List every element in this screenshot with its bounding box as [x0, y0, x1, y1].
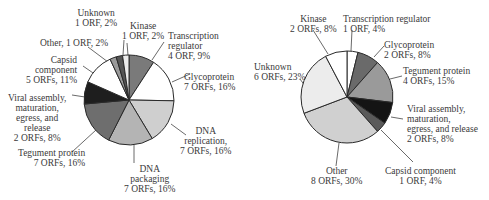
slice-label-line: Viral assembly, — [8, 93, 66, 103]
leader-line — [72, 95, 85, 97]
slice-label: Viral assembly,maturation,egress, and re… — [407, 104, 478, 144]
slice-label-line: Tegument protein — [18, 148, 85, 158]
slice-label-line: regulator — [168, 41, 219, 51]
slice-label-line: 1 ORF, 2% — [75, 18, 117, 28]
slice-label: Glycoprotein2 ORFs, 8% — [384, 40, 434, 60]
leader-line — [123, 40, 124, 55]
slice-label-line: Capsid — [26, 55, 77, 65]
slice-label-line: 2 ORFs, 8% — [384, 50, 434, 60]
slice-label-line: Transcription regulator — [343, 14, 431, 24]
leader-line — [391, 117, 403, 119]
slice-label-line: release — [8, 123, 66, 133]
slice-label: Other8 ORFs, 30% — [311, 166, 362, 186]
slice-label: Capsidcomponent5 ORFs, 11% — [26, 55, 77, 85]
slice-label-line: DNA — [124, 164, 175, 174]
slice-label-line: egress, and — [8, 113, 66, 123]
leader-line — [374, 46, 384, 57]
slice-label-line: Other, 1 ORF, 2% — [40, 38, 108, 48]
slice-label: Kinase1 ORF, 2% — [122, 21, 164, 41]
slice-label-line: Kinase — [122, 21, 164, 31]
slice-label: Kinase2 ORFs, 8% — [290, 14, 337, 34]
slice-label-line: 7 ORFs, 16% — [180, 146, 231, 156]
slice-label-line: 7 ORFs, 16% — [18, 158, 85, 168]
slice-label: Unknown6 ORFs, 23% — [254, 62, 305, 82]
slice-label-line: replication, — [180, 136, 231, 146]
slice-label-line: Viral assembly, — [407, 104, 478, 114]
slice-label-line: 2 ORFs, 8% — [290, 24, 337, 34]
pie-chart-1 — [84, 55, 174, 145]
slice-label-line: 7 ORFs, 16% — [124, 184, 175, 194]
slice-label: Glycoprotein7 ORFs, 16% — [184, 72, 235, 92]
slice-label-line: 8 ORFs, 30% — [311, 176, 362, 186]
leader-line — [390, 76, 402, 79]
slice-label-line: 1 ORF, 4% — [343, 24, 431, 34]
slice-label-line: 2 ORFs, 8% — [407, 134, 478, 144]
slice-label: Tegument protein7 ORFs, 16% — [18, 148, 85, 168]
pie-chart-2 — [301, 51, 393, 143]
slice-label: DNApackaging7 ORFs, 16% — [124, 164, 175, 194]
slice-label-line: Kinase — [290, 14, 337, 24]
leader-line — [127, 43, 128, 55]
slice-label-line: Glycoprotein — [384, 40, 434, 50]
slice-label-line: maturation, — [8, 103, 66, 113]
slice-label: Transcriptionregulator4 ORF, 9% — [168, 31, 219, 61]
slice-label-line: 5 ORFs, 11% — [26, 75, 77, 85]
slice-label-line: DNA — [180, 126, 231, 136]
leader-line — [336, 143, 339, 166]
slice-label: Viral assembly,maturation,egress, andrel… — [8, 93, 66, 143]
slice-label: Unknown1 ORF, 2% — [75, 8, 117, 28]
slice-label-line: packaging — [124, 174, 175, 184]
slice-label-line: 4 ORF, 9% — [168, 51, 219, 61]
slice-label-line: Other — [311, 166, 362, 176]
slice-label: Tegument protein4 ORFs, 15% — [403, 66, 470, 86]
slice-label-line: 7 ORFs, 16% — [184, 82, 235, 92]
slice-label-line: 6 ORFs, 23% — [254, 72, 305, 82]
slice-label-line: Transcription — [168, 31, 219, 41]
slice-label-line: Tegument protein — [403, 66, 470, 76]
slice-label-line: component — [26, 65, 77, 75]
leader-line — [88, 47, 108, 62]
slice-label: Capsid component1 ORF, 4% — [385, 166, 456, 186]
slice-label-line: Unknown — [75, 8, 117, 18]
slice-label: DNAreplication,7 ORFs, 16% — [180, 126, 231, 156]
slice-label-line: maturation, — [407, 114, 478, 124]
slice-label-line: Glycoprotein — [184, 72, 235, 82]
slice-label-line: egress, and release — [407, 124, 478, 134]
slice-label: Transcription regulator1 ORF, 4% — [343, 14, 431, 34]
slice-label: Other, 1 ORF, 2% — [40, 38, 108, 48]
slice-label-line: 1 ORF, 4% — [385, 176, 456, 186]
slice-label-line: Capsid component — [385, 166, 456, 176]
slice-label-line: Unknown — [254, 62, 305, 72]
slice-label-line: 2 ORFs, 8% — [8, 133, 66, 143]
slice-label-line: 4 ORFs, 15% — [403, 76, 470, 86]
slice-label-line: 1 ORF, 2% — [122, 31, 164, 41]
leader-line — [152, 42, 164, 60]
